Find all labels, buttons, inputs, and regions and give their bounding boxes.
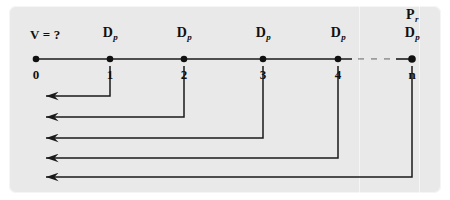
timeline-node-3: [260, 56, 267, 63]
dividend-label-period-3: Dp: [256, 26, 271, 40]
period-number-1: 1: [107, 68, 114, 81]
timeline-node-1: [107, 56, 114, 63]
cash-flow-arrow-5: [46, 66, 412, 177]
timeline-node-0: [33, 56, 40, 63]
cash-flow-arrow-4: [46, 66, 338, 158]
dividend-label-period-2: Dp: [177, 26, 192, 40]
redemption-price-label-base: P: [406, 7, 415, 22]
dividend-label-period-4: Dp: [331, 26, 346, 40]
dividend-label-period-1-sub: p: [113, 32, 118, 42]
period-number-4: 4: [335, 68, 342, 81]
period-number-2: 2: [181, 68, 188, 81]
dividend-label-period-n: Dp: [405, 26, 420, 40]
diagram-vectors: [0, 0, 450, 200]
cash-flow-arrow-1: [46, 66, 110, 96]
dividend-label-period-n-sub: p: [415, 32, 420, 42]
dividend-label-period-3-base: D: [256, 25, 266, 40]
redemption-price-label-sub: r: [415, 14, 419, 24]
dividend-label-period-2-base: D: [177, 25, 187, 40]
timeline-ellipsis: [358, 58, 390, 59]
timeline-node-2: [181, 56, 188, 63]
cash-flow-arrows: [46, 66, 412, 177]
dividend-label-period-1-base: D: [103, 25, 113, 40]
dividend-label-period-3-sub: p: [266, 32, 271, 42]
cash-flow-arrow-3: [46, 66, 263, 138]
dividend-label-period-4-sub: p: [341, 32, 346, 42]
dividend-label-period-4-base: D: [331, 25, 341, 40]
timeline-node-4: [335, 56, 342, 63]
present-value-unknown-label: V = ?: [30, 28, 61, 41]
dividend-label-period-1: Dp: [103, 26, 118, 40]
dividend-label-period-n-base: D: [405, 25, 415, 40]
discounted-cash-flow-timeline-figure: V = ? Dp Dp Dp Dp Pr Dp 0 1 2 3 4 n: [0, 0, 450, 200]
redemption-price-label-period-n: Pr: [406, 8, 418, 22]
period-number-3: 3: [260, 68, 267, 81]
dividend-label-period-2-sub: p: [187, 32, 192, 42]
period-number-n: n: [408, 68, 415, 81]
timeline-node-n: [408, 55, 416, 63]
cash-flow-arrow-2: [46, 66, 184, 117]
period-number-0: 0: [33, 68, 40, 81]
